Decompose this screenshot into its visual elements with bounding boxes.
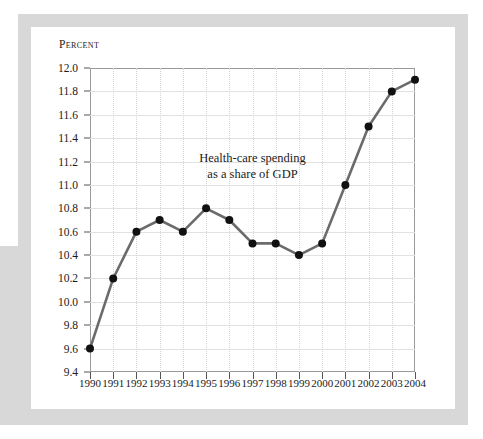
data-point-2003 bbox=[388, 87, 396, 95]
annotation-line-2: as a share of GDP bbox=[199, 166, 306, 183]
frame-top-band bbox=[18, 14, 468, 27]
chart-page: Percent 12.011.811.611.411.211.010.810.6… bbox=[0, 0, 483, 439]
frame-bottom-band bbox=[0, 409, 468, 425]
annotation-line-1: Health-care spending bbox=[199, 150, 306, 167]
series-line bbox=[90, 80, 415, 349]
data-point-2000 bbox=[318, 239, 326, 247]
series-markers bbox=[86, 76, 419, 353]
data-point-1991 bbox=[109, 274, 117, 282]
data-point-1998 bbox=[272, 239, 280, 247]
data-series-layer bbox=[31, 27, 455, 409]
data-point-2002 bbox=[365, 122, 373, 130]
frame-right-band bbox=[455, 14, 468, 409]
data-point-2004 bbox=[411, 76, 419, 84]
data-point-1990 bbox=[86, 345, 94, 353]
chart-annotation: Health-care spending as a share of GDP bbox=[199, 150, 306, 183]
data-point-1996 bbox=[225, 216, 233, 224]
chart-figure: Percent 12.011.811.611.411.211.010.810.6… bbox=[31, 27, 455, 409]
data-point-1994 bbox=[179, 228, 187, 236]
frame-left-band bbox=[18, 14, 31, 246]
data-point-1995 bbox=[202, 204, 210, 212]
data-point-1993 bbox=[156, 216, 164, 224]
data-point-1992 bbox=[132, 228, 140, 236]
data-point-2001 bbox=[341, 181, 349, 189]
data-point-1997 bbox=[249, 239, 257, 247]
data-point-1999 bbox=[295, 251, 303, 259]
frame-left-lower-band bbox=[0, 246, 31, 409]
